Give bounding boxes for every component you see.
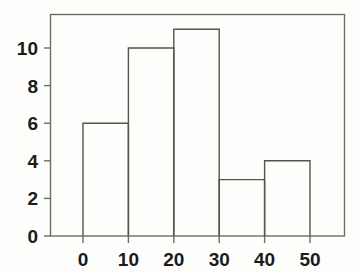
x-tick-label-50: 50 <box>299 249 320 270</box>
x-tick-label-30: 30 <box>209 249 230 270</box>
y-tick-label-2: 2 <box>27 188 38 209</box>
y-tick-label-4: 4 <box>27 151 38 172</box>
y-tick-label-0: 0 <box>27 226 38 247</box>
y-tick-label-8: 8 <box>27 76 38 97</box>
x-tick-label-0: 0 <box>78 249 89 270</box>
chart-background <box>0 0 361 273</box>
x-tick-label-10: 10 <box>118 249 139 270</box>
histogram-figure: 0 2 4 6 8 10 0 10 20 30 40 50 <box>0 0 361 273</box>
y-tick-label-10: 10 <box>17 38 38 59</box>
x-tick-label-20: 20 <box>163 249 184 270</box>
y-tick-label-6: 6 <box>27 113 38 134</box>
x-tick-label-40: 40 <box>254 249 275 270</box>
chart-canvas: 0 2 4 6 8 10 0 10 20 30 40 50 <box>0 0 361 273</box>
